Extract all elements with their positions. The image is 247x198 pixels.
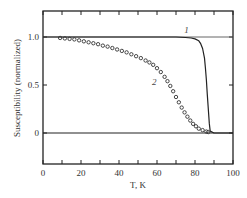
plot-border	[43, 11, 233, 164]
data-point	[92, 42, 95, 45]
curve-label: 2	[152, 77, 157, 87]
data-point	[111, 46, 114, 49]
data-point	[159, 70, 162, 73]
data-point	[186, 115, 189, 118]
data-point	[96, 43, 99, 46]
data-point	[115, 48, 118, 51]
series-2: 2	[58, 36, 210, 133]
data-point	[130, 53, 133, 56]
y-tick-label: 1.0	[28, 32, 40, 42]
data-point	[139, 56, 142, 59]
x-tick-label: 100	[226, 168, 240, 178]
x-tick-label: 40	[115, 168, 125, 178]
data-point	[152, 63, 155, 66]
plot-frame	[43, 11, 233, 164]
data-point	[201, 128, 204, 131]
data-point	[163, 75, 166, 78]
x-tick-label: 60	[153, 168, 163, 178]
y-axis-label: Susceptibility (normalized)	[12, 39, 22, 137]
y-tick-label: 0	[35, 128, 40, 138]
data-point	[77, 39, 80, 42]
data-point	[148, 61, 151, 64]
data-point	[171, 90, 174, 93]
data-point	[189, 119, 192, 122]
series-1: 1	[43, 25, 233, 133]
data-point	[106, 45, 109, 48]
data-point	[174, 95, 177, 98]
y-tick-label: 0.5	[28, 80, 40, 90]
data-point	[87, 41, 90, 44]
data-point	[73, 38, 76, 41]
data-point	[101, 44, 104, 47]
data-point	[183, 111, 186, 114]
x-axis-label: T, K	[130, 180, 146, 190]
data-point	[120, 49, 123, 52]
data-point	[134, 55, 137, 58]
data-point	[68, 37, 71, 40]
susceptibility-chart: 02040608010000.51.0 12 T, K Susceptibili…	[0, 0, 247, 198]
data-point	[144, 59, 147, 62]
curve-line	[43, 37, 233, 133]
data-point	[177, 101, 180, 104]
curve-label: 1	[184, 25, 189, 35]
data-point	[166, 79, 169, 82]
x-tick-label: 0	[41, 168, 46, 178]
data-point	[82, 40, 85, 43]
x-tick-label: 20	[77, 168, 87, 178]
data-point	[180, 106, 183, 109]
data-point	[169, 84, 172, 87]
data-point	[125, 51, 128, 54]
x-tick-label: 80	[191, 168, 201, 178]
data-point	[197, 127, 200, 130]
data-point	[155, 67, 158, 70]
reference-lines	[43, 37, 233, 133]
series-layer: 12	[43, 25, 233, 134]
axis-ticks	[43, 11, 233, 164]
